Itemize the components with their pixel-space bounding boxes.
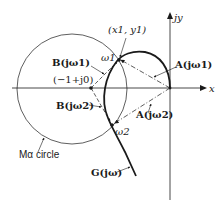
label-minus1: (−1+j0) — [53, 75, 93, 85]
x-axis-label: x — [209, 84, 215, 94]
label-a-jw1: A(jω1) — [175, 60, 212, 70]
label-x1y1: (x1, y1) — [108, 25, 146, 35]
label-g-jw: G(jω) — [91, 168, 122, 178]
label-b-jw1: B(jω1) — [52, 58, 90, 68]
label-m-circle: Mα circle — [19, 150, 59, 160]
x-axis — [12, 85, 207, 91]
m-circle — [17, 34, 127, 144]
leader-a-jw1 — [154, 67, 176, 77]
polar-plot-diagram: x jy (x1, y1) ω1 ω2 A(jω1) A(jω2) B(jω1)… — [0, 0, 218, 209]
y-axis-label: jy — [174, 13, 183, 23]
label-omega1: ω1 — [101, 53, 116, 63]
point-omega1 — [117, 58, 121, 62]
point-omega2 — [110, 123, 114, 127]
label-b-jw2: B(jω2) — [56, 101, 94, 111]
label-omega2: ω2 — [115, 127, 130, 137]
y-axis — [167, 12, 173, 200]
vector-b-jw1 — [91, 62, 117, 88]
leader-b-jw1 — [91, 66, 104, 74]
point-minus1 — [89, 86, 93, 90]
label-a-jw2: A(jω2) — [136, 110, 173, 120]
point-origin — [169, 87, 172, 90]
